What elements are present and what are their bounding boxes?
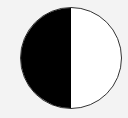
dark-half [21, 8, 71, 108]
half-circle-icon [20, 7, 122, 109]
